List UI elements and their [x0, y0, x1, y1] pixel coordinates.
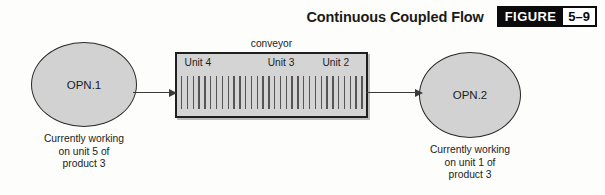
- figure-title: Continuous Coupled Flow: [306, 9, 483, 25]
- conveyor-caption: conveyor: [175, 38, 368, 49]
- arrow-head-icon: [169, 89, 177, 97]
- node-opn2-caption: Currently working on unit 1 of product 3: [419, 144, 521, 182]
- conveyor-tick: [257, 76, 258, 109]
- conveyor-tick: [309, 76, 310, 109]
- node-opn1: OPN.1 Currently working on unit 5 of pro…: [31, 42, 137, 171]
- conveyor-tick: [268, 76, 269, 109]
- arrow-conveyor-to-opn2: [366, 88, 423, 97]
- conveyor-tick: [204, 76, 205, 109]
- node-opn1-circle: OPN.1: [31, 42, 137, 127]
- conveyor-tick: [198, 76, 199, 109]
- node-opn2-circle: OPN.2: [419, 52, 521, 138]
- figure-badge: FIGURE 5–9: [497, 6, 597, 27]
- conveyor-tick: [326, 76, 327, 109]
- conveyor-unit-label: Unit 3: [268, 57, 295, 68]
- node-opn2-label: OPN.2: [453, 89, 488, 101]
- figure-badge-label: FIGURE: [499, 8, 564, 25]
- conveyor-tick: [315, 76, 316, 109]
- conveyor-tick: [251, 76, 252, 109]
- conveyor-tick: [350, 76, 351, 109]
- arrow-line: [133, 92, 169, 94]
- conveyor-tick: [210, 76, 211, 109]
- conveyor-tick: [344, 76, 345, 109]
- conveyor-tick: [355, 76, 356, 109]
- node-opn1-label: OPN.1: [67, 79, 102, 91]
- conveyor-tick: [181, 76, 182, 109]
- arrow-opn1-to-conveyor: [133, 88, 177, 97]
- node-opn2: OPN.2 Currently working on unit 1 of pro…: [419, 52, 521, 182]
- conveyor-tick: [361, 76, 362, 109]
- conveyor-tick: [216, 76, 217, 109]
- conveyor-tick: [228, 76, 229, 109]
- conveyor-tick: [222, 76, 223, 109]
- conveyor-tick-marks: [181, 76, 363, 109]
- conveyor-tick: [332, 76, 333, 109]
- conveyor-box: Unit 4Unit 3Unit 2: [175, 52, 368, 118]
- node-opn1-caption: Currently working on unit 5 of product 3: [31, 133, 137, 171]
- conveyor-group: conveyor Unit 4Unit 3Unit 2: [175, 38, 368, 118]
- conveyor-tick: [280, 76, 281, 109]
- conveyor-tick: [187, 76, 188, 109]
- conveyor-tick: [303, 76, 304, 109]
- conveyor-unit-label: Unit 2: [323, 57, 350, 68]
- conveyor-tick: [286, 76, 287, 109]
- conveyor-tick: [193, 76, 194, 109]
- conveyor-tick: [321, 76, 322, 109]
- figure-header: Continuous Coupled Flow FIGURE 5–9: [306, 6, 597, 27]
- arrow-line: [366, 92, 415, 94]
- figure-badge-number: 5–9: [563, 8, 595, 25]
- conveyor-tick: [297, 76, 298, 109]
- conveyor-tick: [274, 76, 275, 109]
- conveyor-tick: [245, 76, 246, 109]
- conveyor-unit-labels: Unit 4Unit 3Unit 2: [177, 57, 366, 72]
- conveyor-tick: [338, 76, 339, 109]
- conveyor-tick: [262, 76, 263, 109]
- conveyor-unit-label: Unit 4: [185, 57, 212, 68]
- figure-container: Continuous Coupled Flow FIGURE 5–9 OPN.1…: [0, 0, 605, 195]
- arrow-head-icon: [415, 89, 423, 97]
- conveyor-tick: [291, 76, 292, 109]
- conveyor-tick: [239, 76, 240, 109]
- conveyor-tick: [233, 76, 234, 109]
